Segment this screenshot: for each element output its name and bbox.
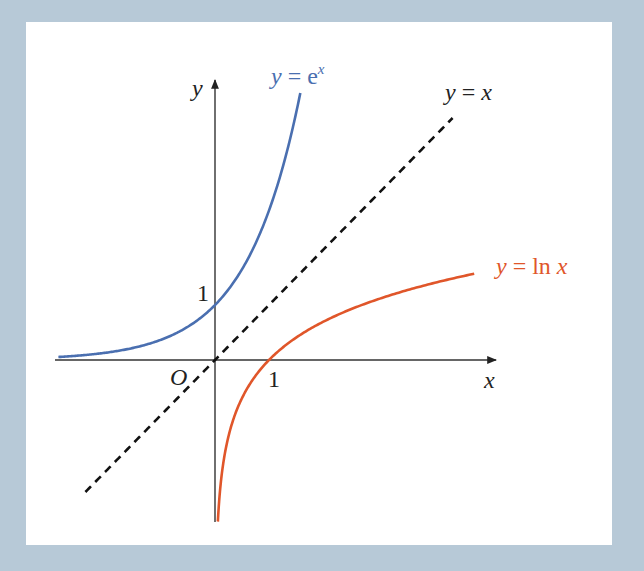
- x-tick-1: 1: [268, 367, 280, 391]
- label-id-y: y: [445, 79, 456, 105]
- label-id-eq: =: [456, 79, 482, 105]
- label-exponential: y = ex: [271, 62, 325, 88]
- y-axis-label: y: [192, 76, 203, 100]
- label-exp-sup: x: [318, 61, 325, 77]
- curve-logarithm: [218, 274, 474, 522]
- label-ln-eq: = ln: [507, 253, 557, 279]
- curve-exponential: [58, 93, 300, 357]
- line-y-equals-x: [85, 118, 452, 492]
- label-ln-y: y: [496, 253, 507, 279]
- label-exp-y: y: [271, 63, 282, 89]
- label-identity: y = x: [445, 80, 492, 104]
- label-exp-eq: = e: [282, 63, 318, 89]
- origin-label: O: [170, 365, 187, 389]
- label-logarithm: y = ln x: [496, 254, 568, 278]
- x-axis-label: x: [484, 368, 495, 392]
- y-tick-1: 1: [197, 281, 209, 305]
- label-ln-x: x: [557, 253, 568, 279]
- label-id-x: x: [481, 79, 492, 105]
